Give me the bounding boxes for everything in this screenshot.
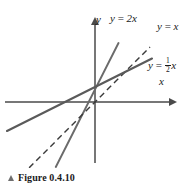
plot-area: y x y = 2x y = x y = 12x xyxy=(0,0,190,168)
x-axis-label: x xyxy=(159,76,164,87)
figure-container: y x y = 2x y = x y = 12x Figure 0.4.10 xyxy=(0,0,190,191)
annotation-yhalfx-eq: = xyxy=(153,59,165,71)
line-y-equals-2x xyxy=(56,43,119,167)
figure-caption-text: Figure 0.4.10 xyxy=(18,172,75,183)
annotation-yhalfx-rhs: x xyxy=(171,59,176,71)
annotation-y-equals-x: y = x xyxy=(157,21,179,32)
annotation-y2x-rhs: 2x xyxy=(127,12,137,24)
line-y-equals-x xyxy=(15,47,150,168)
annotation-yx-rhs: x xyxy=(174,20,179,32)
annotation-y2x-eq: = xyxy=(115,12,127,24)
annotation-yhalfx-fraction: 12 xyxy=(165,57,171,74)
y-axis-label: y xyxy=(96,14,101,25)
annotation-y-equals-half-x: y = 12x xyxy=(148,57,176,74)
x-axis-arrow-icon xyxy=(169,98,177,106)
annotation-y-equals-2x: y = 2x xyxy=(110,13,137,24)
triangle-up-icon xyxy=(8,175,14,181)
figure-caption: Figure 0.4.10 xyxy=(8,172,75,183)
fraction-denominator: 2 xyxy=(165,66,171,74)
annotation-yx-eq: = xyxy=(162,20,174,32)
